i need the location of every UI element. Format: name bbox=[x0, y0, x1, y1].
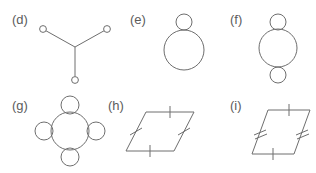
figure-g-label: (g) bbox=[12, 98, 28, 113]
figure-e: (e) bbox=[128, 2, 223, 87]
large-circle bbox=[259, 29, 297, 67]
small-circle-south bbox=[61, 148, 79, 166]
figure-i-label: (i) bbox=[230, 98, 242, 113]
y-graph-edges bbox=[46, 31, 105, 77]
tick-right-1 bbox=[178, 128, 190, 135]
small-circle-west bbox=[35, 122, 53, 140]
small-circle-bottom bbox=[270, 67, 286, 83]
tick-marks bbox=[130, 106, 190, 157]
node-bottom bbox=[72, 77, 79, 84]
tick-marks bbox=[254, 104, 309, 160]
figure-d-label: (d) bbox=[12, 12, 28, 27]
figure-h-label: (h) bbox=[108, 98, 124, 113]
figure-board: (d) (e) (f) bbox=[0, 0, 316, 173]
small-circle-east bbox=[87, 122, 105, 140]
small-circle-top bbox=[176, 14, 192, 30]
small-circle-top bbox=[270, 14, 286, 30]
node-upper-right bbox=[104, 26, 111, 33]
figure-h: (h) bbox=[104, 88, 222, 173]
edge-center-to-upper-right bbox=[75, 31, 105, 48]
tick-left-2 bbox=[255, 134, 267, 139]
node-upper-left bbox=[40, 26, 47, 33]
figure-i: (i) bbox=[228, 88, 316, 173]
figure-f: (f) bbox=[228, 2, 316, 90]
figure-d: (d) bbox=[0, 2, 120, 87]
tick-right-2 bbox=[297, 134, 309, 139]
figure-e-label: (e) bbox=[130, 12, 146, 27]
center-circle bbox=[51, 112, 89, 150]
edge-center-to-upper-left bbox=[46, 31, 76, 48]
figure-g: (g) bbox=[0, 88, 120, 173]
large-circle bbox=[164, 30, 204, 70]
small-circle-north bbox=[61, 96, 79, 114]
figure-f-label: (f) bbox=[230, 12, 242, 27]
tick-left-1 bbox=[130, 128, 142, 135]
